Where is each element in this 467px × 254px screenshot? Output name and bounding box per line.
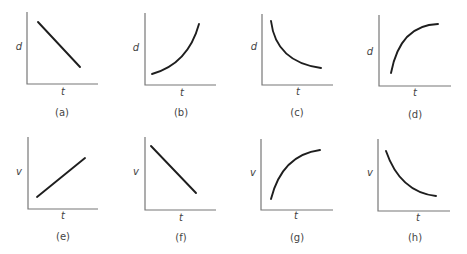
panel-b-curve: [152, 24, 199, 74]
panel-a-graph: [27, 12, 98, 84]
panel-c-caption: (c): [290, 108, 303, 118]
panel-c-graph: [262, 14, 333, 85]
panel-a-xlabel: t: [61, 87, 65, 97]
panel-a-ylabel: d: [16, 42, 22, 52]
panel-f-curve: [151, 146, 196, 193]
panel-f-xlabel: t: [179, 213, 183, 223]
panel-h-ylabel: v: [367, 168, 373, 178]
panel-d-caption: (d): [408, 110, 422, 120]
panel-b-axes: [145, 13, 216, 85]
panel-f-caption: (f): [175, 233, 186, 243]
panel-c-xlabel: t: [296, 87, 300, 97]
panel-b-caption: (b): [174, 108, 188, 118]
panel-h-caption: (h): [408, 233, 422, 243]
panel-g-graph: [261, 139, 333, 210]
panel-f-graph: [145, 137, 216, 210]
panel-e-caption: (e): [56, 232, 70, 242]
panel-b-xlabel: t: [180, 88, 184, 98]
panel-f-axes: [145, 137, 216, 210]
panel-h-xlabel: t: [416, 213, 420, 223]
panel-c-axes: [262, 14, 333, 85]
panel-a-caption: (a): [55, 108, 69, 118]
panel-d-axes: [379, 15, 451, 86]
panel-g-xlabel: t: [294, 211, 298, 221]
panel-g-caption: (g): [290, 233, 304, 243]
panel-b-graph: [145, 13, 216, 85]
panel-c-ylabel: d: [251, 42, 257, 52]
panel-d-graph: [379, 15, 451, 86]
panel-d-curve: [391, 24, 438, 73]
panel-h-axes: [378, 139, 450, 211]
panel-g-ylabel: v: [250, 168, 256, 178]
panel-e-ylabel: v: [16, 167, 22, 177]
panel-f-ylabel: v: [133, 167, 139, 177]
panel-e-axes: [28, 137, 98, 209]
panel-e-curve: [37, 158, 85, 197]
panel-c-curve: [271, 21, 321, 68]
graphs-canvas: [0, 0, 467, 254]
panel-d-ylabel: d: [367, 47, 373, 57]
panel-a-curve: [38, 22, 80, 67]
panel-d-xlabel: t: [413, 88, 417, 98]
panel-g-curve: [271, 150, 320, 199]
panel-b-ylabel: d: [133, 43, 139, 53]
panel-e-xlabel: t: [61, 211, 65, 221]
panel-h-curve: [386, 151, 436, 196]
panel-h-graph: [378, 139, 450, 211]
panel-e-graph: [28, 137, 98, 209]
